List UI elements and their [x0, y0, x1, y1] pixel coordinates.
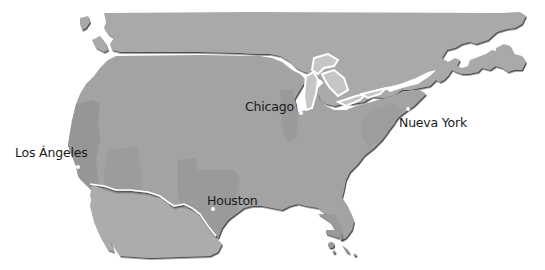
new-york-marker[interactable]: [406, 107, 410, 111]
houston-label: Houston: [207, 195, 258, 208]
los-angeles-label: Los Ángeles: [15, 147, 87, 160]
los-angeles-marker[interactable]: [76, 165, 80, 169]
north-america-map: [0, 0, 545, 270]
chicago-label: Chicago: [245, 101, 294, 114]
new-york-label: Nueva York: [399, 117, 467, 130]
chicago-marker[interactable]: [299, 111, 303, 115]
map-container: Chicago Nueva York Los Ángeles Houston: [0, 0, 545, 270]
